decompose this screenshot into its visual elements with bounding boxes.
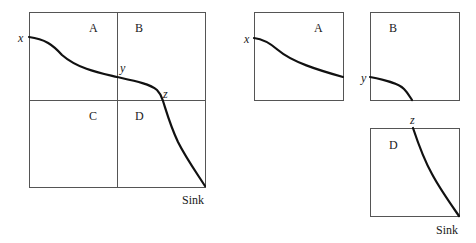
panel-d-point-z: z: [410, 114, 415, 126]
point-z-label: z: [163, 88, 168, 100]
quadrant-d-label: D: [135, 110, 144, 122]
panel-a-title: A: [314, 22, 323, 34]
panel-d-border: [371, 129, 460, 217]
panel-a-border: [255, 13, 344, 101]
panel-a-point-x: x: [244, 33, 249, 45]
sink-label: Sink: [182, 194, 204, 206]
point-y-label: y: [120, 62, 125, 74]
decomposition-diagram: [0, 0, 476, 243]
panel-d-curve: [413, 128, 459, 216]
panel-b-border: [371, 13, 460, 101]
quadrant-b-label: B: [135, 22, 143, 34]
panel-b-title: B: [389, 22, 397, 34]
panel-a-curve: [254, 38, 343, 77]
quadrant-c-label: C: [89, 110, 97, 122]
panel-b-curve: [370, 77, 412, 100]
point-x-label: x: [18, 32, 23, 44]
panel-d-sink-label: Sink: [436, 224, 458, 236]
quadrant-a-label: A: [89, 22, 98, 34]
panel-b-point-y: y: [361, 72, 366, 84]
panel-d-title: D: [389, 139, 398, 151]
